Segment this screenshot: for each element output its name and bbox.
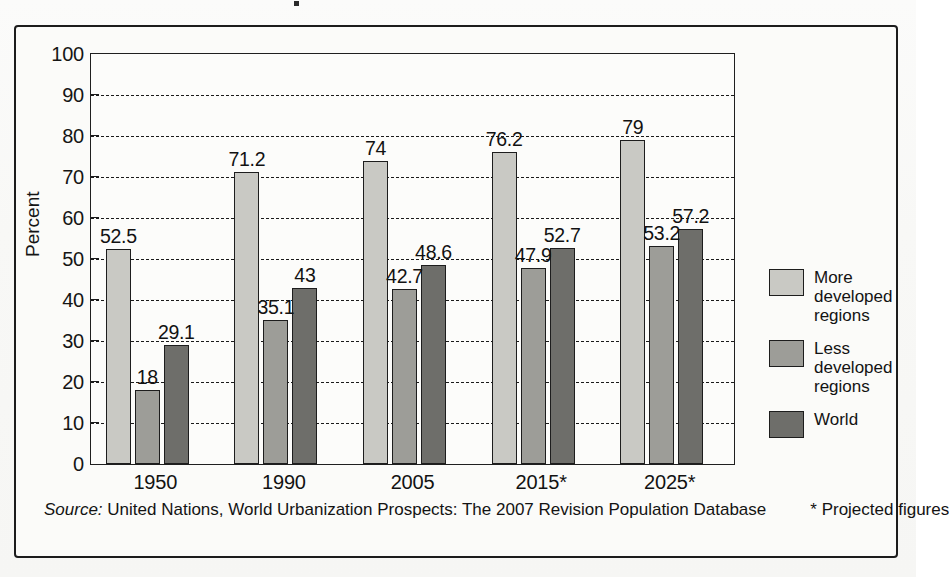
source-label: Source:: [44, 500, 103, 519]
bar-1950-series2: [164, 345, 189, 464]
source-body: United Nations, World Urbanization Prosp…: [103, 500, 767, 519]
legend-swatch-icon: [769, 340, 804, 367]
legend-label-line: regions: [814, 377, 892, 396]
legend-label-line: More: [814, 268, 892, 287]
bar-2025star-series0: [620, 140, 645, 464]
bar-chart: Percent 0102030405060708090100 52.51829.…: [14, 25, 898, 558]
bar-value-label: 29.1: [146, 321, 206, 344]
legend-label-line: developed: [814, 287, 892, 306]
source-citation: Source: United Nations, World Urbanizati…: [44, 500, 766, 520]
legend-label: Moredevelopedregions: [814, 268, 892, 325]
bar-2015star-series1: [521, 268, 546, 464]
plot-area: 0102030405060708090100 52.51829.171.235.…: [90, 53, 735, 465]
legend-label-line: World: [814, 410, 858, 429]
bar-value-label: 42.7: [375, 265, 435, 288]
y-axis-tick-10: 10: [62, 412, 84, 435]
y-axis-tick-mark: [91, 258, 99, 259]
y-axis-tick-mark: [91, 94, 99, 95]
gridline: [91, 95, 734, 96]
bar-1950-series0: [106, 249, 131, 464]
legend-label-line: Less: [814, 339, 892, 358]
y-axis-tick-mark: [91, 217, 99, 218]
x-axis-tick-1950: 1950: [91, 471, 220, 494]
y-axis-tick-20: 20: [62, 371, 84, 394]
y-axis-tick-70: 70: [62, 166, 84, 189]
x-axis-tick-1990: 1990: [220, 471, 349, 494]
bar-value-label: 43: [275, 264, 335, 287]
bar-1950-series1: [135, 390, 160, 464]
y-axis-tick-mark: [91, 381, 99, 382]
legend-label: World: [814, 410, 858, 429]
y-axis-tick-80: 80: [62, 125, 84, 148]
legend-label-line: developed: [814, 358, 892, 377]
projected-figures-note: * Projected figures: [810, 500, 949, 520]
x-axis-tick-2005: 2005: [348, 471, 477, 494]
bar-value-label: 35.1: [246, 296, 306, 319]
bar-value-label: 18: [117, 366, 177, 389]
bar-2005-series0: [363, 161, 388, 464]
y-axis-tick-90: 90: [62, 84, 84, 107]
bar-2015star-series2: [550, 248, 575, 464]
legend-swatch-icon: [769, 269, 804, 296]
bar-2005-series2: [421, 265, 446, 464]
bar-1990-series1: [263, 320, 288, 464]
legend-label: Lessdevelopedregions: [814, 339, 892, 396]
bar-2025star-series2: [678, 229, 703, 464]
bar-2015star-series0: [492, 152, 517, 464]
chart-legend: MoredevelopedregionsLessdevelopedregions…: [769, 268, 889, 452]
y-axis-tick-0: 0: [73, 453, 84, 476]
x-axis-tick-2015star: 2015*: [477, 471, 606, 494]
y-axis-tick-mark: [91, 176, 99, 177]
legend-label-line: regions: [814, 306, 892, 325]
y-axis-tick-50: 50: [62, 248, 84, 271]
bar-value-label: 52.5: [88, 225, 148, 248]
y-axis-tick-40: 40: [62, 289, 84, 312]
y-axis-tick-30: 30: [62, 330, 84, 353]
x-axis-tick-2025star: 2025*: [605, 471, 734, 494]
bar-value-label: 79: [603, 116, 663, 139]
bar-value-label: 52.7: [532, 224, 592, 247]
y-axis-tick-mark: [91, 422, 99, 423]
y-axis-tick-mark: [91, 340, 99, 341]
bar-value-label: 74: [346, 137, 406, 160]
bar-value-label: 48.6: [404, 241, 464, 264]
bar-value-label: 57.2: [661, 205, 721, 228]
legend-item-2[interactable]: World: [769, 410, 889, 438]
bar-value-label: 71.2: [217, 148, 277, 171]
chart-footer: Source: United Nations, World Urbanizati…: [44, 500, 884, 520]
bar-2005-series1: [392, 289, 417, 464]
legend-swatch-icon: [769, 411, 804, 438]
bar-value-label: 76.2: [474, 128, 534, 151]
y-axis-tick-60: 60: [62, 207, 84, 230]
y-axis-label: Percent: [22, 192, 44, 257]
cropped-title-artifact: [294, 1, 299, 6]
legend-item-0[interactable]: Moredevelopedregions: [769, 268, 889, 325]
legend-item-1[interactable]: Lessdevelopedregions: [769, 339, 889, 396]
y-axis-tick-100: 100: [51, 43, 84, 66]
bar-value-label: 47.9: [503, 244, 563, 267]
y-axis-tick-mark: [91, 135, 99, 136]
bar-2025star-series1: [649, 246, 674, 464]
y-axis-tick-mark: [91, 299, 99, 300]
